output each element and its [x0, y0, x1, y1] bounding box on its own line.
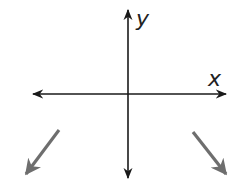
y-axis-label: y — [136, 8, 149, 30]
right-end-behavior-arrow — [193, 132, 226, 174]
x-axis-label: x — [208, 68, 221, 90]
coordinate-plane — [0, 0, 242, 184]
left-end-behavior-arrow — [26, 130, 59, 174]
